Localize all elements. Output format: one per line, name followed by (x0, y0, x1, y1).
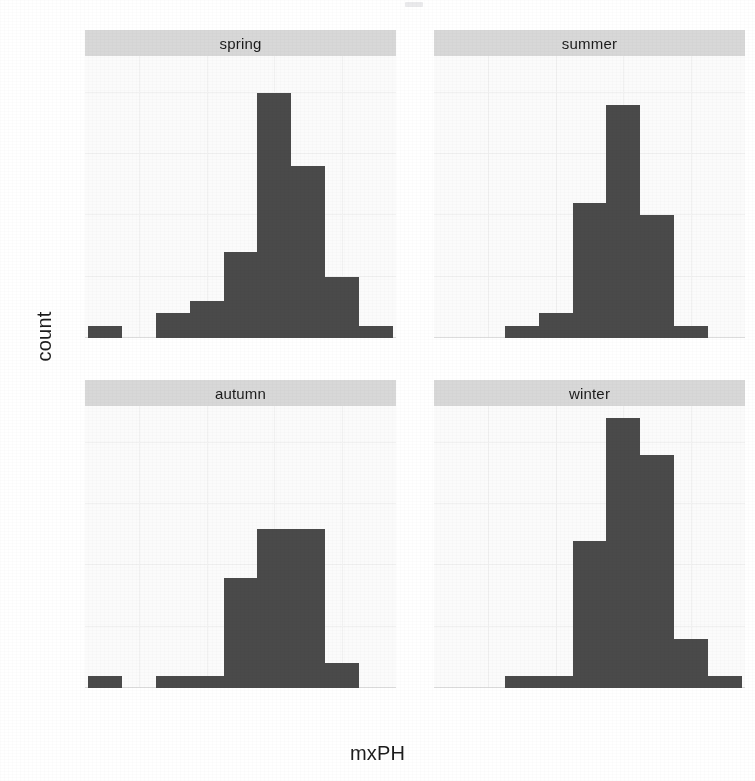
gridline-horizontal (85, 503, 396, 504)
histogram-bar (291, 166, 325, 338)
gridline-vertical (342, 406, 343, 688)
histogram-bar (156, 313, 190, 338)
gridline-vertical (556, 406, 557, 688)
gridline-vertical (691, 56, 692, 338)
gridline-vertical (556, 56, 557, 338)
plot-area-winter: 6789 (434, 406, 745, 688)
facet-column-right: summer winter 6789 (434, 30, 745, 718)
histogram-bar (88, 676, 122, 688)
histogram-bar (573, 203, 607, 338)
gridline-horizontal (85, 153, 396, 154)
histogram-bar (505, 326, 539, 338)
histogram-bar (88, 326, 122, 338)
gridline-vertical (207, 406, 208, 688)
histogram-bar (640, 455, 674, 688)
gridline-horizontal (85, 214, 396, 215)
scan-artifact (405, 2, 423, 7)
bars-summer (434, 56, 745, 338)
histogram-bar (674, 639, 708, 688)
histogram-bar (359, 326, 393, 338)
plot-area-autumn: 051015206789 (85, 406, 396, 688)
facet-strip-summer: summer (434, 30, 745, 56)
plot-area-summer (434, 56, 745, 338)
facet-panel-spring: spring 05101520 (85, 30, 396, 368)
bars-winter: 6789 (434, 406, 745, 688)
histogram-bar (640, 215, 674, 338)
histogram-bar (224, 252, 258, 338)
facet-panel-autumn: autumn 051015206789 (85, 380, 396, 718)
gridline-vertical (139, 406, 140, 688)
facet-column-left: spring 05101520 autumn 051015206789 (85, 30, 396, 718)
histogram-bar (257, 93, 291, 338)
facet-panel-winter: winter 6789 (434, 380, 745, 718)
histogram-bar (190, 676, 224, 688)
facet-strip-winter: winter (434, 380, 745, 406)
histogram-bar (224, 578, 258, 688)
gridline-horizontal (434, 153, 745, 154)
facet-grid: spring 05101520 autumn 051015206789 summ… (85, 30, 745, 718)
facet-strip-label: winter (569, 385, 610, 402)
histogram-bar (156, 676, 190, 688)
histogram-bar (325, 277, 359, 338)
plot-area-spring: 05101520 (85, 56, 396, 338)
gridline-vertical (488, 56, 489, 338)
histogram-bar (674, 326, 708, 338)
histogram-bar (708, 676, 742, 688)
histogram-bar (190, 301, 224, 338)
x-axis-title: mxPH (0, 742, 755, 765)
bars-spring: 05101520 (85, 56, 396, 338)
histogram-bar (505, 676, 573, 688)
facet-strip-label: summer (562, 35, 617, 52)
gridline-horizontal (85, 442, 396, 443)
facet-strip-autumn: autumn (85, 380, 396, 406)
gridline-vertical (207, 56, 208, 338)
histogram-bar (325, 663, 359, 688)
histogram-bar (539, 313, 573, 338)
gridline-vertical (488, 406, 489, 688)
histogram-bar (573, 541, 607, 688)
gridline-vertical (139, 56, 140, 338)
histogram-figure: count mxPH spring 05101520 autumn 051015… (0, 0, 755, 781)
gridline-horizontal (85, 92, 396, 93)
gridline-horizontal (434, 442, 745, 443)
histogram-bar (257, 529, 325, 688)
facet-panel-summer: summer (434, 30, 745, 368)
facet-strip-label: spring (219, 35, 261, 52)
histogram-bar (606, 105, 640, 338)
facet-strip-label: autumn (215, 385, 266, 402)
histogram-bar (606, 418, 640, 688)
gridline-horizontal (85, 564, 396, 565)
gridline-horizontal (434, 92, 745, 93)
gridline-horizontal (434, 503, 745, 504)
y-axis-title: count (33, 277, 56, 397)
bars-autumn: 051015206789 (85, 406, 396, 688)
facet-strip-spring: spring (85, 30, 396, 56)
